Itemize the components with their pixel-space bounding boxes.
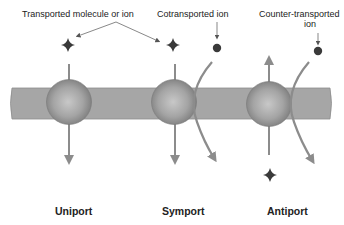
molecule-star-icon [166,38,180,52]
title-antiport: Antiport [267,205,308,217]
ion-dot-icon [314,47,322,55]
molecule-star-icon [263,168,277,182]
label-transported-molecule: Transported molecule or ion [22,9,134,19]
uniport-transporter [47,64,92,160]
title-uniport: Uniport [55,205,92,217]
transport-diagram [0,0,344,225]
molecule-star-icon [61,38,75,52]
ion-dot-icon [213,44,221,52]
label-cotransported-ion: Cotransported ion [157,9,229,19]
callout-lines [78,22,318,43]
label-counter-transported-line2: ion [304,19,316,29]
label-counter-transported-line1: Counter-transported [259,9,340,19]
title-symport: Symport [162,205,205,217]
